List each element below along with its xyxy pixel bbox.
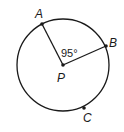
point-p bbox=[61, 63, 65, 67]
point-b bbox=[104, 44, 108, 48]
radius-pa bbox=[42, 24, 63, 65]
label-a: A bbox=[34, 7, 43, 21]
point-a bbox=[40, 22, 44, 26]
label-c: C bbox=[83, 111, 92, 125]
label-p: P bbox=[57, 71, 65, 85]
label-b: B bbox=[109, 36, 117, 50]
angle-label: 95° bbox=[61, 47, 78, 59]
point-c bbox=[82, 106, 86, 110]
circle-diagram: A B C P 95° bbox=[0, 0, 124, 132]
